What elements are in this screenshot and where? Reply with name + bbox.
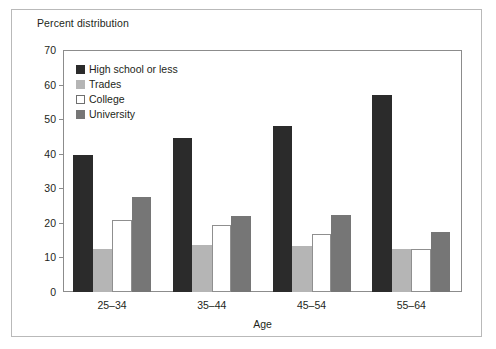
bar-high-school-or-less-45-54 — [273, 126, 293, 292]
legend-item: University — [76, 108, 178, 121]
legend-item: Trades — [76, 78, 178, 91]
bar-trades-55-64 — [392, 249, 412, 292]
bar-high-school-or-less-35-44 — [173, 138, 193, 292]
legend-label: High school or less — [89, 64, 178, 75]
legend-swatch-icon — [76, 65, 85, 74]
bar-college-45-54 — [312, 234, 332, 292]
x-group-label: 25–34 — [97, 299, 126, 311]
x-group-label: 35–44 — [197, 299, 226, 311]
legend-swatch-icon — [76, 80, 85, 89]
y-tick-mark — [59, 188, 63, 189]
bar-trades-35-44 — [192, 245, 212, 292]
bar-trades-45-54 — [292, 246, 312, 292]
y-tick-label: 40 — [44, 148, 56, 160]
legend-label: Trades — [89, 79, 121, 90]
legend-item: High school or less — [76, 63, 178, 76]
chart-figure: Percent distribution 010203040506070 25–… — [0, 0, 496, 349]
legend-item: College — [76, 93, 178, 106]
y-tick-mark — [59, 119, 63, 120]
x-group-label: 55–64 — [397, 299, 426, 311]
y-tick-mark — [59, 154, 63, 155]
y-tick-label: 10 — [44, 251, 56, 263]
y-tick-mark — [59, 223, 63, 224]
legend-label: University — [89, 109, 135, 120]
y-tick-label: 50 — [44, 113, 56, 125]
bar-trades-25-34 — [93, 249, 113, 292]
bar-college-35-44 — [212, 225, 232, 292]
bar-university-45-54 — [331, 215, 351, 292]
bar-high-school-or-less-25-34 — [73, 155, 93, 292]
y-tick-mark — [59, 257, 63, 258]
bar-high-school-or-less-55-64 — [372, 95, 392, 292]
chart-caption: Percent distribution — [37, 17, 129, 29]
legend-label: College — [89, 94, 125, 105]
bar-university-25-34 — [132, 197, 152, 292]
y-tick-label: 70 — [44, 44, 56, 56]
bar-university-35-44 — [231, 216, 251, 292]
bar-college-55-64 — [411, 249, 431, 292]
x-group-label: 45–54 — [297, 299, 326, 311]
chart-legend: High school or lessTradesCollegeUniversi… — [76, 63, 178, 121]
bar-college-25-34 — [112, 220, 132, 292]
legend-swatch-icon — [76, 95, 85, 104]
y-tick-label: 30 — [44, 182, 56, 194]
x-axis-title: Age — [253, 318, 272, 330]
y-tick-label: 20 — [44, 217, 56, 229]
y-tick-label: 0 — [50, 286, 56, 298]
y-tick-label: 60 — [44, 79, 56, 91]
bar-university-55-64 — [431, 232, 451, 293]
y-tick-mark — [59, 85, 63, 86]
legend-swatch-icon — [76, 110, 85, 119]
